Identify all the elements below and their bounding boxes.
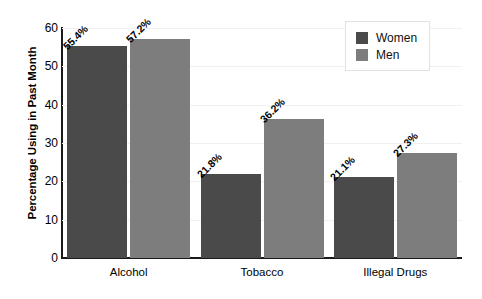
bar-tobacco-men — [264, 119, 324, 258]
bar-illegal-drugs-men — [397, 153, 457, 258]
y-tick-label: 50 — [12, 59, 58, 73]
legend-item-women[interactable]: Women — [356, 29, 417, 46]
bar-tobacco-women — [201, 174, 261, 258]
x-category-label: Alcohol — [62, 266, 195, 278]
y-tick-label: 10 — [12, 213, 58, 227]
y-tick-label: 0 — [12, 251, 58, 265]
chart-legend: WomenMen — [345, 21, 430, 71]
legend-label: Men — [376, 48, 399, 62]
bar-chart: Percentage Using in Past Month 010203040… — [0, 0, 482, 299]
y-tick-label: 60 — [12, 21, 58, 35]
legend-swatch-icon — [356, 32, 368, 44]
legend-swatch-icon — [356, 49, 368, 61]
y-tick-label: 40 — [12, 98, 58, 112]
y-axis-tick-labels: 0102030405060 — [0, 0, 58, 299]
bar-alcohol-women — [67, 46, 127, 258]
legend-item-men[interactable]: Men — [356, 46, 417, 63]
legend-label: Women — [376, 31, 417, 45]
bar-illegal-drugs-women — [334, 177, 394, 258]
bar-alcohol-men — [130, 39, 190, 258]
x-category-label: Tobacco — [195, 266, 328, 278]
y-tick-label: 30 — [12, 136, 58, 150]
y-tick-label: 20 — [12, 174, 58, 188]
x-category-label: Illegal Drugs — [329, 266, 462, 278]
